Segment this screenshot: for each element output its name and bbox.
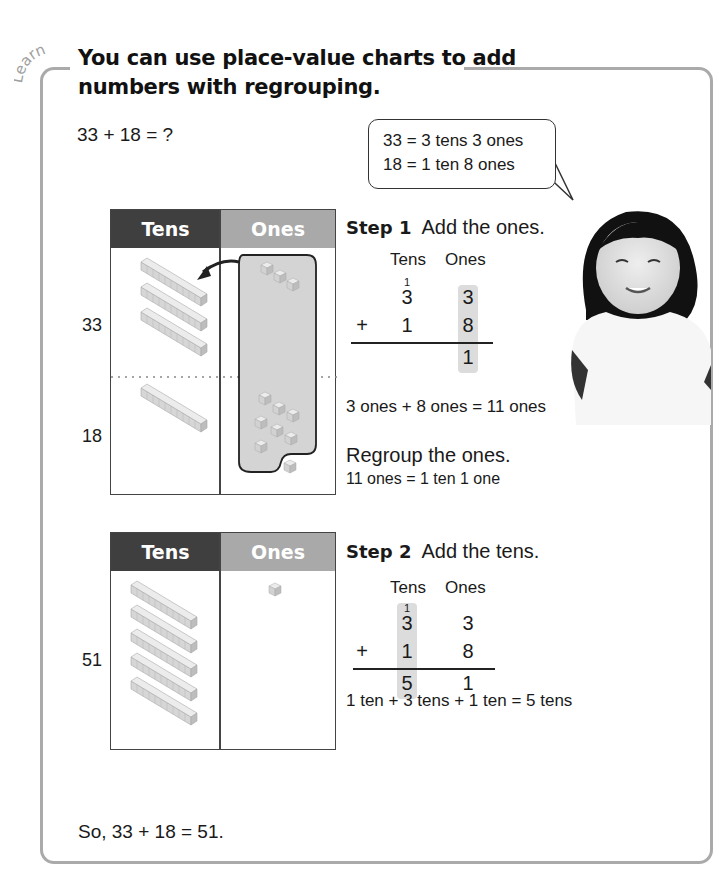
step2-a1-tens: 3 (397, 612, 417, 635)
step1-result-ones: 1 (458, 346, 478, 369)
girl-photo (566, 200, 711, 425)
step2-instruction: Add the tens. (421, 540, 539, 562)
step2-a1-ones: 3 (458, 612, 478, 635)
conclusion: So, 33 + 18 = 51. (78, 821, 224, 843)
step2-sum-line (353, 668, 495, 670)
place-value-chart-1: Tens Ones (110, 209, 336, 495)
step1-plus: + (352, 314, 372, 337)
step2-header-ones: Ones (445, 578, 486, 598)
step2-plus: + (352, 640, 372, 663)
step2-explanation: 1 ten + 3 tens + 1 ten = 5 tens (346, 691, 572, 711)
step2-header-tens: Tens (390, 578, 426, 598)
svg-text:Learn: Learn (14, 40, 48, 84)
step1-title: Step 1Add the ones. (346, 216, 545, 239)
title-line-2: numbers with regrouping. (78, 73, 538, 102)
problem-equation: 33 + 18 = ? (77, 124, 173, 146)
step1-header-ones: Ones (445, 250, 486, 270)
step1-a1-ones: 3 (458, 286, 478, 309)
learn-label: Learn (14, 40, 74, 90)
chart1-row-label-33: 33 (82, 315, 102, 336)
chart1-row-label-18: 18 (82, 426, 102, 447)
step1-sum-line (351, 342, 493, 344)
chart2-blocks (111, 533, 337, 751)
regroup-circle (239, 255, 316, 472)
title-line-1: You can use place-value charts to add (78, 44, 538, 73)
step2-a2-tens: 1 (397, 640, 417, 663)
step1-explanation: 3 ones + 8 ones = 11 ones (346, 397, 546, 417)
step2-vertical-addition: Tens Ones 1 3 3 + 1 8 5 1 (350, 578, 510, 738)
speech-bubble: 33 = 3 tens 3 ones 18 = 1 ten 8 ones (368, 119, 556, 189)
step1-a1-tens: 3 (397, 286, 417, 309)
chart2-row-label-51: 51 (82, 650, 102, 671)
bubble-line-2: 18 = 1 ten 8 ones (383, 153, 555, 177)
step1-header-tens: Tens (390, 250, 426, 270)
step1-label: Step 1 (346, 217, 411, 238)
regroup-title: Regroup the ones. (346, 444, 511, 467)
regroup-detail: 11 ones = 1 ten 1 one (346, 470, 500, 488)
step1-a2-ones: 8 (458, 314, 478, 337)
lesson-title: You can use place-value charts to add nu… (78, 44, 538, 102)
chart1-blocks (111, 210, 337, 496)
step1-vertical-addition: Tens Ones 1 3 3 + 1 8 1 (350, 250, 510, 410)
step2-a2-ones: 8 (458, 640, 478, 663)
step2-label: Step 2 (346, 541, 411, 562)
place-value-chart-2: Tens Ones (110, 532, 336, 750)
step2-title: Step 2Add the tens. (346, 540, 539, 563)
step1-instruction: Add the ones. (421, 216, 544, 238)
step1-a2-tens: 1 (397, 314, 417, 337)
bubble-line-1: 33 = 3 tens 3 ones (383, 129, 555, 153)
